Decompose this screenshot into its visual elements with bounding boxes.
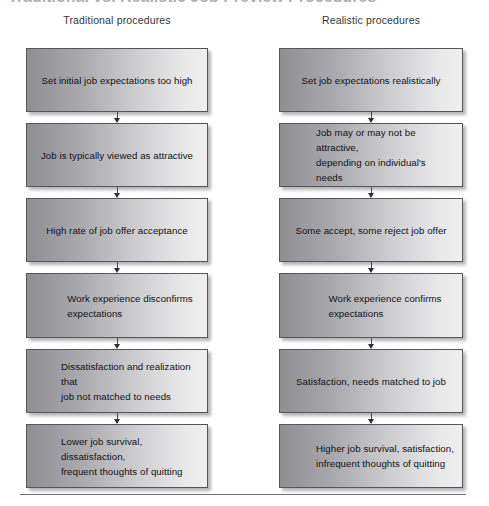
- flow-box: Job may or may not be attractive, depend…: [279, 123, 463, 187]
- flow-box: High rate of job offer acceptance: [26, 198, 208, 262]
- flow-arrow: [279, 262, 463, 273]
- column-heading-traditional: Traditional procedures: [26, 14, 208, 26]
- flow-arrow: [279, 338, 463, 349]
- flow-box-label: Set initial job expectations too high: [31, 73, 202, 88]
- figure-title: Traditional vs. Realistic Job Preview Pr…: [8, 0, 376, 6]
- flow-box-label: Higher job survival, satisfaction, infre…: [280, 441, 462, 471]
- flow-arrow: [279, 112, 463, 123]
- column-heading-realistic: Realistic procedures: [279, 14, 463, 26]
- flow-box: Work experience disconfirms expectations: [26, 273, 208, 338]
- flow-arrow: [26, 413, 208, 424]
- flow-arrow: [279, 187, 463, 198]
- flow-box-label: Lower job survival, dissatisfaction, fre…: [27, 434, 207, 479]
- flow-box-label: Job is typically viewed as attractive: [31, 148, 203, 163]
- figure-title-strip: Traditional vs. Realistic Job Preview Pr…: [0, 0, 489, 9]
- flow-box-label: Some accept, some reject job offer: [285, 223, 456, 238]
- figure-bottom-rule: [20, 494, 466, 495]
- flow-column-traditional: Set initial job expectations too high Jo…: [26, 48, 208, 488]
- flow-box: Job is typically viewed as attractive: [26, 123, 208, 187]
- flow-box: Lower job survival, dissatisfaction, fre…: [26, 424, 208, 488]
- flow-arrow: [279, 413, 463, 424]
- flow-box-label: Work experience confirms expectations: [292, 291, 449, 321]
- flow-box: Set job expectations realistically: [279, 48, 463, 112]
- flow-arrow: [26, 262, 208, 273]
- flow-box-label: Dissatisfaction and realization that job…: [27, 359, 207, 404]
- flow-box: Dissatisfaction and realization that job…: [26, 349, 208, 413]
- flow-box: Work experience confirms expectations: [279, 273, 463, 338]
- flow-box-label: Job may or may not be attractive, depend…: [280, 125, 462, 185]
- flow-arrow: [26, 112, 208, 123]
- flow-box: Some accept, some reject job offer: [279, 198, 463, 262]
- flow-box-label: Set job expectations realistically: [291, 73, 450, 88]
- flow-box: Set initial job expectations too high: [26, 48, 208, 112]
- flow-arrow: [26, 187, 208, 198]
- flow-arrow: [26, 338, 208, 349]
- flow-column-realistic: Set job expectations realistically Job m…: [279, 48, 463, 488]
- flow-box-label: Satisfaction, needs matched to job: [286, 374, 456, 389]
- flow-box: Satisfaction, needs matched to job: [279, 349, 463, 413]
- flow-box-label: High rate of job offer acceptance: [36, 223, 198, 238]
- flow-box-label: Work experience disconfirms expectations: [33, 291, 201, 321]
- flow-box: Higher job survival, satisfaction, infre…: [279, 424, 463, 488]
